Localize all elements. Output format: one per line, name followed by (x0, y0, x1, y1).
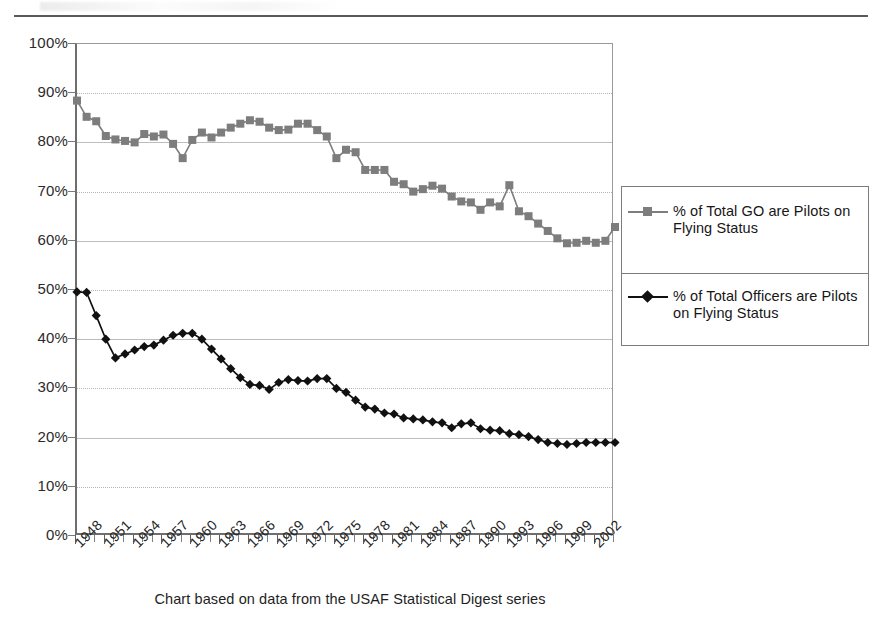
square-marker (371, 166, 379, 174)
diamond-marker (457, 419, 466, 428)
square-marker (496, 202, 504, 210)
square-marker (428, 182, 436, 190)
diamond-marker (255, 381, 264, 390)
diamond-marker (101, 335, 110, 344)
square-marker (438, 185, 446, 193)
square-marker (236, 120, 244, 128)
square-marker (284, 126, 292, 134)
plot-area (75, 43, 613, 535)
diamond-marker (553, 439, 562, 448)
legend-box-primary: % of Total GO are Pilots on Flying Statu… (621, 186, 869, 274)
diamond-marker (159, 336, 168, 345)
series-go-pilots (73, 97, 619, 248)
diamond-marker (92, 311, 101, 320)
y-tick-mark (68, 240, 75, 241)
square-marker (188, 136, 196, 144)
square-marker (217, 129, 225, 137)
square-marker (352, 148, 360, 156)
square-marker (601, 237, 609, 245)
square-marker (390, 178, 398, 186)
diamond-marker (399, 413, 408, 422)
y-axis-ticks (0, 43, 82, 535)
y-tick-mark (68, 289, 75, 290)
square-marker (294, 120, 302, 128)
diamond-marker (524, 432, 533, 441)
chart-caption: Chart based on data from the USAF Statis… (0, 591, 700, 607)
y-tick-mark (68, 437, 75, 438)
square-marker (102, 132, 110, 140)
chart-page: 0%10%20%30%40%50%60%70%80%90%100% 194819… (0, 0, 882, 621)
series-layer (77, 44, 615, 536)
diamond-marker (149, 341, 158, 350)
diamond-marker (111, 353, 120, 362)
diamond-marker (418, 415, 427, 424)
legend-entry-go: % of Total GO are Pilots on Flying Statu… (628, 203, 868, 237)
diamond-marker (370, 404, 379, 413)
scan-artifact (40, 2, 340, 11)
diamond-marker (303, 376, 312, 385)
diamond-marker (293, 376, 302, 385)
square-marker (150, 133, 158, 141)
y-tick-mark (68, 141, 75, 142)
square-marker (332, 154, 340, 162)
square-marker (169, 140, 177, 148)
diamond-marker (168, 331, 177, 340)
legend-label-officers: % of Total Officers are Pilots on Flying… (668, 288, 868, 322)
diamond-marker (514, 430, 523, 439)
y-tick-mark (68, 191, 75, 192)
diamond-marker (601, 438, 610, 447)
square-marker (380, 166, 388, 174)
diamond-marker (188, 329, 197, 338)
y-tick-mark (68, 387, 75, 388)
diamond-marker (591, 438, 600, 447)
square-marker (265, 124, 273, 132)
square-marker (505, 181, 513, 189)
square-marker (457, 197, 465, 205)
legend-entry-officers: % of Total Officers are Pilots on Flying… (628, 288, 868, 322)
diamond-marker (505, 429, 514, 438)
square-marker (313, 126, 321, 134)
square-marker (592, 239, 600, 247)
square-marker (361, 166, 369, 174)
diamond-marker (543, 438, 552, 447)
square-marker (525, 212, 533, 220)
legend-box-secondary: % of Total Officers are Pilots on Flying… (621, 274, 869, 346)
square-marker (467, 198, 475, 206)
diamond-marker (120, 349, 129, 358)
diamond-marker (447, 423, 456, 432)
diamond-marker (428, 417, 437, 426)
square-marker (179, 154, 187, 162)
square-marker (256, 118, 264, 126)
square-marker (573, 239, 581, 247)
square-marker-icon (628, 204, 668, 220)
legend-label-go: % of Total GO are Pilots on Flying Statu… (668, 203, 868, 237)
diamond-marker (466, 418, 475, 427)
diamond-marker (582, 438, 591, 447)
square-marker (553, 234, 561, 242)
diamond-marker (380, 408, 389, 417)
diamond-marker (437, 418, 446, 427)
y-tick-mark (68, 486, 75, 487)
series-line (77, 292, 615, 445)
square-marker (304, 120, 312, 128)
square-marker (544, 227, 552, 235)
header-divider (14, 15, 868, 17)
square-marker (400, 180, 408, 188)
square-marker (515, 207, 523, 215)
diamond-marker (562, 440, 571, 449)
square-marker (448, 193, 456, 201)
square-marker (198, 129, 206, 137)
diamond-marker (313, 374, 322, 383)
square-marker (477, 206, 485, 214)
square-marker (563, 239, 571, 247)
diamond-marker-icon (628, 289, 668, 305)
diamond-marker (572, 439, 581, 448)
square-marker (611, 223, 619, 231)
square-marker (342, 146, 350, 154)
diamond-marker (284, 375, 293, 384)
y-tick-mark (68, 92, 75, 93)
diamond-marker (130, 345, 139, 354)
diamond-marker (486, 426, 495, 435)
diamond-marker (389, 409, 398, 418)
square-marker (140, 130, 148, 138)
